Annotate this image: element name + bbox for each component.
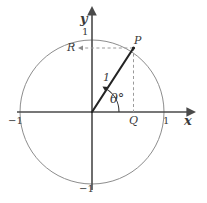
tick-label-y-one: 1: [82, 27, 88, 37]
radius-length-label: 1: [103, 72, 110, 83]
unit-circle-diagram: x y 1 −1 −1 1 P Q R 1 θ°: [0, 0, 207, 203]
angle-label: θ°: [110, 92, 124, 105]
point-label-r: R: [67, 42, 75, 53]
x-axis-label: x: [184, 114, 192, 127]
tick-label-y-minus-one: −1: [79, 184, 94, 194]
point-label-q: Q: [129, 115, 138, 126]
y-axis-label: y: [80, 12, 88, 25]
tick-label-x-minus-one: −1: [8, 116, 23, 126]
tick-label-x-one: 1: [163, 116, 169, 126]
point-label-p: P: [134, 35, 141, 46]
diagram-canvas: [0, 0, 207, 203]
